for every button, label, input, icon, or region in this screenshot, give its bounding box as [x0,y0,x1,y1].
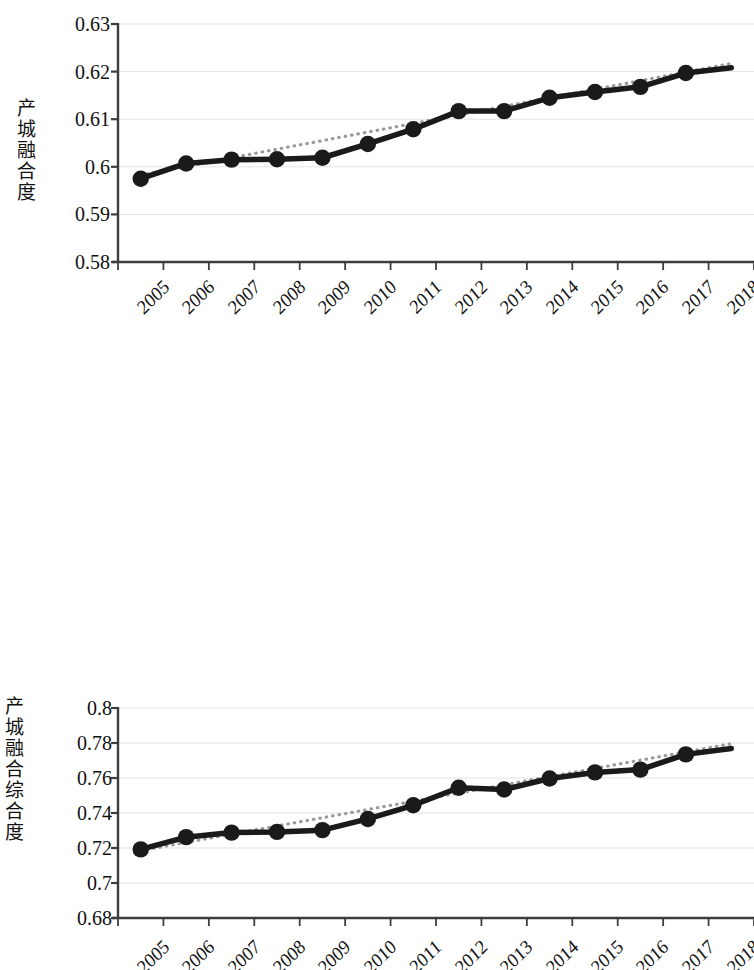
chart-3-x-tick-labels: 2005200620072008200920102011201220132014… [0,660,754,661]
chart-panel-2: 产城融合综合度 0.80.780.760.740.720.70.68 20052… [0,340,754,660]
chart-1-y-axis-title-char: 产 [14,98,38,119]
chart-1-x-tick: 2013 [495,276,537,318]
chart-1-x-tick: 2012 [450,276,492,318]
chart-1-y-tick: 0.62 [75,60,110,83]
chart-panel-1: 产城融合度 0.630.620.610.60.590.58 2005200620… [0,0,754,330]
chart-1-x-tick-labels: 2005200620072008200920102011201220132014… [0,0,754,1]
chart-1-data-marker [360,136,376,152]
chart-1-data-marker [133,171,149,187]
chart-1-y-tick: 0.63 [75,13,110,36]
chart-1-x-tick: 2008 [268,276,310,318]
chart-1-x-tick: 2016 [632,276,674,318]
chart-1-data-marker [405,121,421,137]
chart-1-data-marker [223,151,239,167]
chart-1-x-tick: 2009 [314,276,356,318]
chart-1-data-marker [678,65,694,81]
chart-panel-3: 产城融合耦合度 0.49720.4970.49680.49660.49640.4… [0,660,754,970]
chart-1-y-axis-title: 产城融合度 [14,98,38,203]
chart-1-data-marker [541,90,557,106]
chart-1-x-tick: 2015 [586,276,628,318]
chart-1-data-marker [269,151,285,167]
figure-container: 产城融合度 0.630.620.610.60.590.58 2005200620… [0,0,754,970]
chart-1-x-tick: 2007 [223,276,265,318]
chart-1-x-tick: 2018 [722,276,754,318]
chart-1-data-marker [451,103,467,119]
chart-1-data-marker [314,150,330,166]
chart-1-data-marker [496,103,512,119]
chart-1-y-axis-title-char: 融 [14,140,38,161]
chart-1-plot-area [118,24,754,262]
chart-1-y-tick: 0.59 [75,203,110,226]
chart-1-data-marker [587,84,603,100]
chart-1-x-tick: 2005 [132,276,174,318]
chart-1-svg [118,24,754,276]
chart-1-x-tick: 2010 [359,276,401,318]
chart-1-y-tick: 0.6 [85,155,110,178]
chart-1-data-marker [632,79,648,95]
chart-1-data-marker [178,155,194,171]
chart-1-y-axis-title-char: 合 [14,161,38,182]
chart-1-y-axis-title-char: 城 [14,119,38,140]
chart-1-y-tick: 0.61 [75,108,110,131]
chart-2-x-tick-labels: 2005200620072008200920102011201220132014… [0,340,754,341]
chart-1-x-tick: 2006 [177,276,219,318]
chart-1-y-axis-title-char: 度 [14,182,38,203]
chart-1-x-tick: 2014 [541,276,583,318]
chart-1-y-tick: 0.58 [75,251,110,274]
chart-1-x-tick: 2017 [677,276,719,318]
chart-1-x-tick: 2011 [405,276,447,318]
